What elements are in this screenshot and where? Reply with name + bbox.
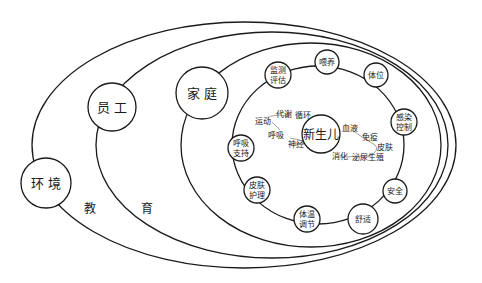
svg-text:体温: 体温: [299, 209, 315, 219]
monitoring-node: 监测 评估: [265, 62, 291, 88]
positioning-node: 体位: [364, 63, 388, 87]
svg-text:感染: 感染: [396, 112, 412, 122]
skin-care-node: 皮肤 护理: [244, 177, 270, 203]
newborn-label: 新生儿: [303, 127, 339, 142]
environment-label: 环 境: [31, 176, 61, 191]
staff-label: 员 工: [97, 100, 127, 115]
thermoregulation-node: 体温 调节: [294, 206, 320, 232]
svg-text:舒适: 舒适: [355, 214, 371, 224]
education-label-2: 育: [141, 201, 153, 216]
immunity-label: 免疫: [362, 132, 378, 142]
environment-node: 环 境: [21, 158, 71, 208]
exercise-label: 运动: [255, 116, 271, 126]
family-node: 家 庭: [176, 67, 228, 119]
care-model-diagram: 环 境 员 工 家 庭 教 育 运动 代谢 循环 呼吸 神经 血液 免疫 皮肤 …: [0, 0, 482, 283]
digestion-label: 消化: [332, 151, 348, 161]
newborn-node: 新生儿: [302, 115, 340, 153]
nerve-label: 神经: [288, 139, 304, 149]
comfort-node: 舒适: [348, 204, 378, 234]
svg-text:控制: 控制: [396, 122, 412, 132]
svg-text:皮肤: 皮肤: [249, 180, 265, 190]
circulation-label: 循环: [295, 110, 311, 120]
education-label-1: 教: [84, 201, 96, 216]
family-label: 家 庭: [187, 86, 217, 101]
safety-node: 安全: [383, 179, 407, 203]
svg-text:安全: 安全: [387, 186, 403, 196]
skin-label: 皮肤: [377, 142, 393, 152]
svg-text:呼吸: 呼吸: [233, 138, 249, 148]
urogenital-label: 泌尿生殖: [352, 152, 384, 162]
respiration-label: 呼吸: [268, 130, 284, 140]
svg-text:体位: 体位: [368, 70, 384, 80]
svg-text:评估: 评估: [270, 75, 286, 85]
infection-control-node: 感染 控制: [391, 109, 417, 135]
blood-label: 血液: [342, 123, 358, 133]
svg-text:调节: 调节: [299, 220, 315, 229]
feeding-node: 喂养: [315, 50, 339, 74]
svg-text:护理: 护理: [249, 190, 265, 200]
metabolism-label: 代谢: [276, 109, 292, 119]
respiratory-support-node: 呼吸 支持: [228, 135, 254, 161]
svg-text:支持: 支持: [233, 148, 249, 158]
svg-text:监测: 监测: [270, 65, 286, 75]
staff-node: 员 工: [88, 83, 136, 131]
svg-text:喂养: 喂养: [319, 57, 335, 67]
